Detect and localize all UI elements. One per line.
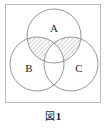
set-label-b: B	[25, 62, 32, 74]
shaded-region-a-and-c-not-b	[5, 4, 101, 103]
set-label-c: C	[75, 62, 82, 74]
set-label-a: A	[50, 22, 58, 34]
figure-caption: 図1	[0, 110, 107, 123]
venn-diagram-canvas: A B C	[5, 4, 101, 103]
figure-caption-number: 1	[56, 110, 62, 122]
venn-diagram-figure: A B C 図1	[0, 0, 107, 129]
figure-caption-label: 図	[45, 111, 56, 122]
